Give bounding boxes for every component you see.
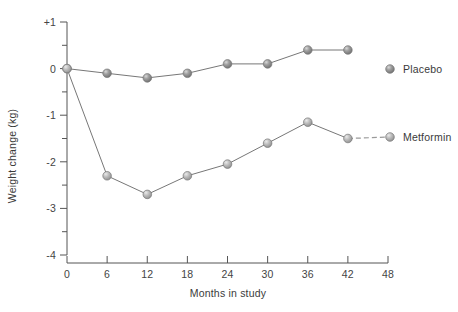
weight-change-line-chart: +10-1-2-3-4 0612182430364248 Weight chan… bbox=[0, 0, 458, 312]
y-tick-label: -3 bbox=[28, 202, 56, 214]
data-point-placebo bbox=[183, 69, 192, 78]
y-tick-label: -4 bbox=[28, 249, 56, 261]
data-point-placebo bbox=[143, 74, 152, 83]
x-tick-label: 12 bbox=[141, 268, 153, 280]
x-tick-label: 0 bbox=[64, 268, 70, 280]
y-axis-minor-ticks bbox=[62, 45, 67, 231]
data-point-metformin bbox=[344, 134, 353, 143]
chart-axes bbox=[60, 22, 388, 263]
data-point-placebo bbox=[304, 46, 313, 55]
data-point-placebo bbox=[344, 46, 353, 55]
data-point-metformin bbox=[63, 64, 72, 73]
y-tick-label: -2 bbox=[28, 156, 56, 168]
y-tick-label: -1 bbox=[28, 109, 56, 121]
data-point-metformin bbox=[304, 118, 313, 127]
y-axis-title: Weight change (kg) bbox=[6, 109, 18, 203]
x-tick-label: 24 bbox=[221, 268, 233, 280]
data-point-metformin bbox=[263, 139, 272, 148]
x-tick-label: 30 bbox=[262, 268, 274, 280]
data-point-metformin bbox=[183, 172, 192, 181]
legend-marker-placebo bbox=[386, 65, 395, 74]
x-tick-label: 36 bbox=[302, 268, 314, 280]
y-tick-label: +1 bbox=[28, 16, 56, 28]
data-point-placebo bbox=[263, 60, 272, 69]
data-point-metformin bbox=[103, 172, 112, 181]
x-tick-label: 48 bbox=[382, 268, 394, 280]
data-point-metformin bbox=[223, 160, 232, 169]
chart-series-lines bbox=[67, 50, 390, 194]
data-point-placebo bbox=[223, 60, 232, 69]
legend-label-metformin: Metformin bbox=[403, 131, 451, 143]
legend-label-placebo: Placebo bbox=[403, 63, 442, 75]
x-axis-title: Months in study bbox=[190, 287, 267, 299]
data-point-placebo bbox=[103, 69, 112, 78]
x-tick-label: 6 bbox=[104, 268, 110, 280]
x-axis-ticks bbox=[67, 256, 388, 263]
legend-marker-metformin bbox=[386, 133, 395, 142]
y-tick-label: 0 bbox=[28, 63, 56, 75]
legend-markers bbox=[386, 65, 395, 142]
chart-canvas bbox=[0, 0, 458, 312]
data-point-metformin bbox=[143, 190, 152, 199]
x-tick-label: 42 bbox=[342, 268, 354, 280]
series-line-extrapolated-metformin bbox=[348, 137, 390, 139]
x-tick-label: 18 bbox=[181, 268, 193, 280]
